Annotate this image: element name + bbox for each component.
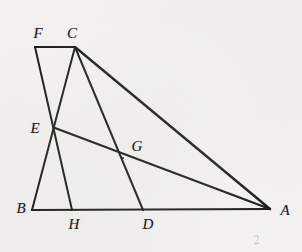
vertex-point-G	[122, 157, 124, 159]
vertex-label-H: H	[69, 217, 80, 232]
vertex-label-G: G	[132, 139, 143, 154]
vertex-label-C: C	[67, 26, 77, 41]
segments-group	[32, 47, 270, 210]
vertex-point-H	[71, 209, 73, 211]
vertex-label-E: E	[30, 121, 39, 136]
vertex-point-C	[74, 46, 76, 48]
vertex-point-A	[269, 208, 271, 210]
geometry-figure: ABCDEFGH 2	[0, 0, 302, 252]
segment-CD	[75, 47, 143, 210]
vertex-point-F	[34, 46, 36, 48]
vertex-label-A: A	[280, 203, 289, 218]
segment-CA	[75, 47, 270, 209]
vertex-label-B: B	[16, 201, 25, 216]
vertex-label-F: F	[33, 26, 42, 41]
vertex-point-D	[142, 209, 144, 211]
segment-EA	[55, 128, 270, 209]
segment-BA	[32, 209, 270, 210]
vertex-label-D: D	[143, 217, 154, 232]
vertex-point-B	[31, 209, 33, 211]
figure-canvas	[0, 0, 302, 252]
vertex-point-E	[54, 127, 56, 129]
